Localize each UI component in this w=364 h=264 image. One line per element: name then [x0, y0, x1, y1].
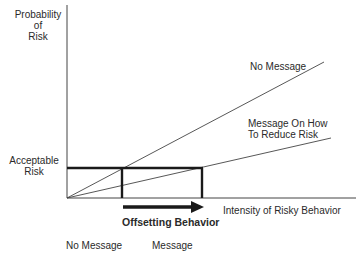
no-message-line: [67, 62, 324, 198]
offsetting-arrow-head: [191, 201, 204, 213]
diagram-canvas: [0, 0, 364, 264]
